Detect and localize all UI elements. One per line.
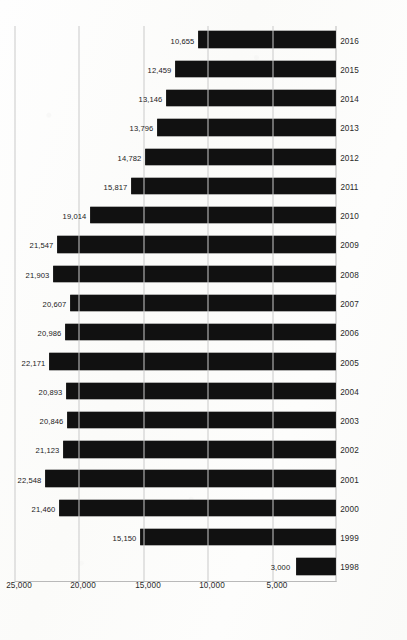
bar-value-label: 20,607 [42, 300, 66, 309]
value-axis-tick-label: 25,000 [6, 581, 32, 590]
bar-value-label: 10,655 [170, 36, 194, 45]
category-axis-label: 2007 [340, 300, 359, 309]
bar [14, 441, 335, 457]
bar-fill [166, 90, 335, 106]
bar [14, 119, 335, 135]
category-axis-label: 2011 [340, 182, 358, 191]
category-axis-label: 2008 [340, 270, 359, 279]
bar-value-label: 14,782 [117, 153, 141, 162]
bar [14, 529, 335, 545]
gridline [78, 26, 79, 581]
category-axis-label: 2006 [340, 329, 359, 338]
bar-value-label: 21,903 [25, 270, 49, 279]
bar [14, 500, 335, 516]
category-axis-label: 1998 [340, 563, 359, 572]
bar-fill [145, 149, 335, 165]
bar-fill [157, 119, 335, 135]
bar-value-label: 15,150 [112, 534, 136, 543]
bar-fill [67, 412, 335, 428]
bar-fill [65, 324, 335, 340]
bar-fill [198, 31, 335, 47]
category-axis-label: 2001 [340, 475, 359, 484]
bar-fill [49, 353, 335, 369]
category-axis-label: 2009 [340, 241, 359, 250]
value-axis-tick-label: 20,000 [70, 581, 96, 590]
bar-value-label: 21,460 [31, 504, 55, 513]
bar-fill [59, 500, 335, 516]
value-axis-tick-label: 10,000 [199, 581, 225, 590]
gridline [207, 26, 208, 581]
bar-fill [70, 295, 335, 311]
bar-fill [175, 61, 335, 77]
bar-value-label: 13,146 [138, 95, 162, 104]
bar [14, 324, 335, 340]
bar-value-label: 22,171 [22, 358, 46, 367]
category-axis-label: 2013 [340, 124, 359, 133]
bar-value-label: 20,846 [39, 417, 63, 426]
bar [14, 470, 335, 486]
bar-fill [131, 178, 335, 194]
bar [14, 236, 335, 252]
bar [14, 353, 335, 369]
bar-fill [53, 266, 335, 282]
bar-fill [45, 470, 335, 486]
category-axis-label: 2003 [340, 417, 359, 426]
bar-value-label: 20,893 [38, 387, 62, 396]
bar-value-label: 21,123 [35, 446, 59, 455]
bar-value-label: 3,000 [271, 563, 291, 572]
bar-fill [66, 383, 335, 399]
bar [14, 266, 335, 282]
bar [14, 178, 335, 194]
bar [14, 61, 335, 77]
category-axis-label: 2014 [340, 95, 359, 104]
category-axis-label: 2000 [340, 504, 359, 513]
value-axis-tick-label: 5,000 [266, 581, 287, 590]
bar-fill [90, 207, 335, 223]
category-axis-label: 1999 [340, 534, 359, 543]
bar-value-label: 12,459 [147, 65, 171, 74]
bar-value-label: 15,817 [103, 182, 127, 191]
bar-value-label: 22,548 [17, 475, 41, 484]
gridline [14, 26, 15, 581]
bar-value-label: 21,547 [30, 241, 54, 250]
category-axis-label: 2004 [340, 387, 359, 396]
bar-value-label: 19,014 [62, 212, 86, 221]
category-axis-label: 2012 [340, 153, 359, 162]
bar [14, 90, 335, 106]
chart-canvas: 5,00010,00015,00020,00025,000 1998199920… [0, 0, 407, 640]
bar-fill [296, 558, 335, 574]
value-axis-tick-label: 15,000 [134, 581, 160, 590]
bar-fill [57, 236, 335, 252]
gridline [272, 26, 273, 581]
bar-value-label: 13,796 [129, 124, 153, 133]
category-axis-label: 2010 [340, 212, 359, 221]
category-axis-label: 2015 [340, 65, 359, 74]
bar [14, 149, 335, 165]
category-axis-label: 2016 [340, 36, 359, 45]
category-axis-label: 2005 [340, 358, 359, 367]
bar-fill [140, 529, 335, 545]
category-axis-label: 2002 [340, 446, 359, 455]
gridline [143, 26, 144, 581]
bar-fill [63, 441, 335, 457]
bar-value-label: 20,986 [37, 329, 61, 338]
